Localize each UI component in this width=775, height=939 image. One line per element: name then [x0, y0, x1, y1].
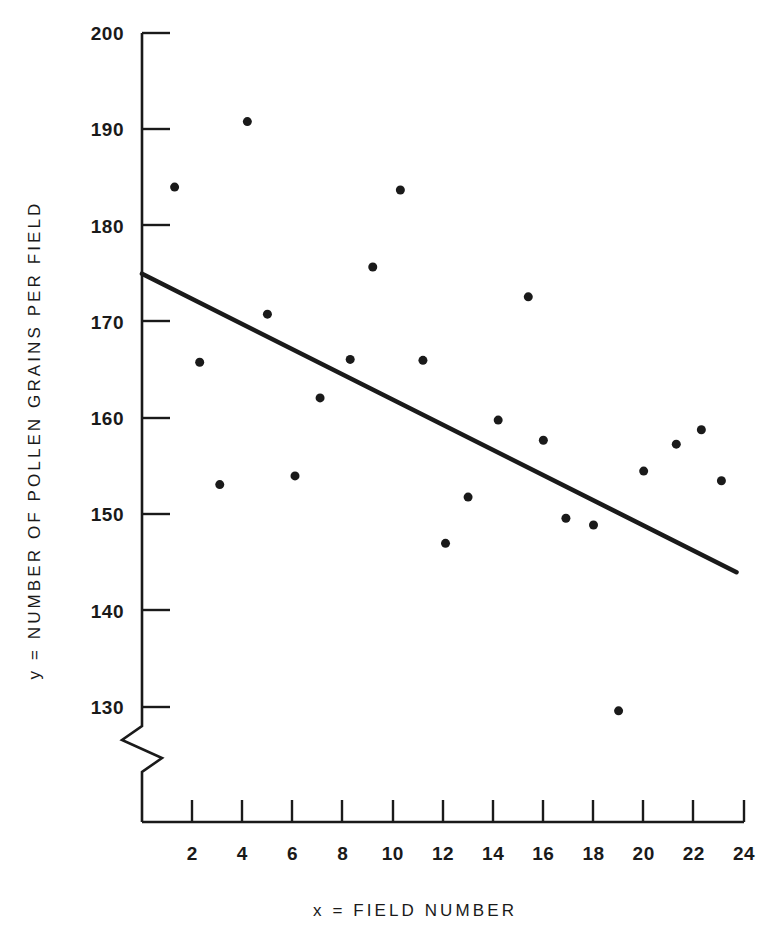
y-tick-label-130: 130: [91, 697, 124, 718]
data-point: [418, 356, 427, 365]
data-point: [195, 358, 204, 367]
y-axis-break-zigzag-icon: [122, 716, 162, 822]
data-point: [441, 539, 450, 548]
plot-canvas: 130140150160170180190200 246810121416182…: [0, 0, 775, 939]
y-tick-label-170: 170: [91, 312, 124, 333]
y-tick-label-200: 200: [91, 23, 124, 44]
data-point: [589, 521, 598, 530]
x-tick-label-10: 10: [382, 843, 404, 864]
data-point: [697, 425, 706, 434]
data-point: [316, 393, 325, 402]
data-point-group: [170, 117, 726, 715]
data-point: [291, 471, 300, 480]
data-point: [539, 436, 548, 445]
y-axis-ticks: [142, 33, 170, 707]
y-tick-label-140: 140: [91, 601, 124, 622]
x-tick-label-24: 24: [733, 843, 755, 864]
data-point: [614, 706, 623, 715]
x-tick-label-14: 14: [482, 843, 504, 864]
y-tick-label-160: 160: [91, 408, 124, 429]
data-point: [524, 292, 533, 301]
data-point: [170, 183, 179, 192]
x-tick-label-8: 8: [337, 843, 348, 864]
data-point: [639, 467, 648, 476]
data-point: [215, 480, 224, 489]
x-tick-label-2: 2: [187, 843, 198, 864]
data-point: [396, 185, 405, 194]
x-tick-label-4: 4: [237, 843, 248, 864]
y-tick-label-150: 150: [91, 504, 124, 525]
x-axis-tick-labels: 24681012141618202224: [187, 843, 755, 864]
data-point: [368, 262, 377, 271]
y-tick-label-180: 180: [91, 216, 124, 237]
data-point: [494, 416, 503, 425]
scatter-plot-figure: 130140150160170180190200 246810121416182…: [0, 0, 775, 939]
data-point: [464, 493, 473, 502]
y-axis-title: y = NUMBER OF POLLEN GRAINS PER FIELD: [25, 201, 44, 680]
x-tick-label-22: 22: [683, 843, 705, 864]
y-axis-tick-labels: 130140150160170180190200: [91, 23, 124, 718]
y-tick-label-190: 190: [91, 119, 124, 140]
data-point: [717, 476, 726, 485]
data-point: [561, 514, 570, 523]
x-tick-label-6: 6: [287, 843, 298, 864]
x-tick-label-18: 18: [582, 843, 604, 864]
x-tick-label-20: 20: [633, 843, 655, 864]
x-tick-label-16: 16: [532, 843, 554, 864]
data-point: [263, 310, 272, 319]
data-point: [672, 440, 681, 449]
x-tick-label-12: 12: [432, 843, 454, 864]
x-axis-title: x = FIELD NUMBER: [313, 901, 517, 920]
data-point: [243, 117, 252, 126]
data-point: [346, 355, 355, 364]
regression-line: [142, 274, 736, 572]
x-axis-ticks: [192, 800, 744, 822]
